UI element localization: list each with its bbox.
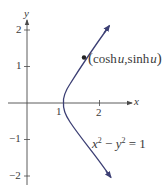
equation-rhs: = 1 [125,136,145,151]
point-label-cosh: cosh [93,51,117,66]
point-label-close: ) [157,50,162,66]
diagram-canvas [0,0,168,192]
hyperbola-diagram: y x 2 1 −1 −2 1 2 (coshu,sinhu) x2 − y2 … [0,0,168,192]
y-tick-label-neg2: −2 [9,170,21,181]
y-tick-label-2: 2 [16,24,22,35]
point-marker [82,55,86,59]
point-label: (coshu,sinhu) [88,51,162,66]
x-tick-label-1: 1 [56,106,62,117]
curve-arrow-top-icon [104,26,110,34]
equation-label: x2 − y2 = 1 [92,137,146,150]
y-tick-label-1: 1 [16,60,22,71]
equation-minus: − [102,136,116,151]
x-axis-label: x [134,96,139,107]
hyperbola-curve [63,27,110,177]
curve-arrow-bottom-icon [106,171,111,178]
x-tick-label-2: 2 [96,107,102,118]
point-label-sinh: sinh [128,51,150,66]
y-tick-label-neg1: −1 [9,133,21,144]
y-axis-label: y [24,8,29,19]
